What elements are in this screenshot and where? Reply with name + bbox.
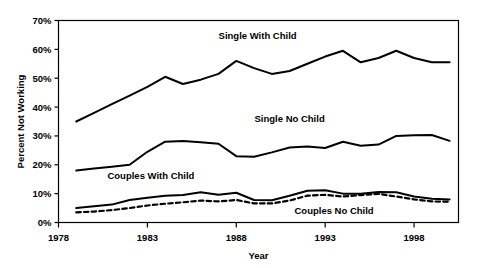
chart-container: 0%10%20%30%40%50%60%70%19781983198819931… — [0, 0, 482, 268]
y-axis-tick-label: 60% — [32, 44, 52, 55]
y-axis-tick-label: 30% — [32, 130, 52, 141]
series-line-2 — [76, 190, 449, 208]
y-axis-title: Percent Not Working — [15, 74, 26, 168]
series-label-3: Couples No Child — [294, 205, 373, 216]
series-label-2: Couples With Child — [107, 170, 194, 181]
series-line-3 — [76, 194, 449, 212]
x-axis-title: Year — [248, 250, 268, 261]
x-axis-tick-label: 1983 — [137, 232, 158, 243]
series-line-0 — [76, 51, 449, 122]
x-axis-tick-label: 1988 — [226, 232, 247, 243]
series-line-1 — [76, 135, 449, 171]
y-axis-tick-label: 50% — [32, 73, 52, 84]
y-axis-tick-label: 10% — [32, 188, 52, 199]
series-label-1: Single No Child — [255, 113, 325, 124]
y-axis-tick-label: 40% — [32, 102, 52, 113]
line-chart: 0%10%20%30%40%50%60%70%19781983198819931… — [0, 0, 482, 268]
series-label-0: Single With Child — [219, 30, 297, 41]
x-axis-tick-label: 1998 — [403, 232, 424, 243]
x-axis-tick-label: 1978 — [48, 232, 69, 243]
y-axis-tick-label: 70% — [32, 15, 52, 26]
x-axis-tick-label: 1993 — [315, 232, 336, 243]
y-axis-tick-label: 0% — [38, 217, 52, 228]
y-axis-tick-label: 20% — [32, 159, 52, 170]
